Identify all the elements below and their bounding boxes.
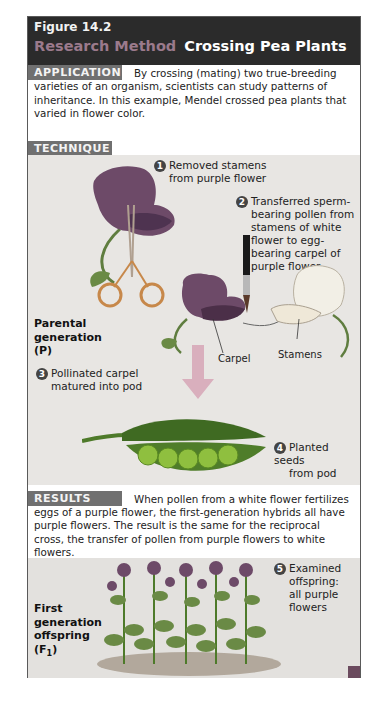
- step-1-line-1: Removed stamens: [169, 159, 266, 171]
- results-text-first: When pollen from a white flower fertiliz…: [134, 493, 349, 505]
- f1-line-3: offspring: [34, 629, 102, 643]
- corner-marker: [348, 666, 360, 678]
- step-2-line-1: Transferred sperm-: [251, 195, 350, 207]
- f1-close-paren: ): [52, 643, 57, 656]
- figure-frame: Figure 14.2 Research MethodCrossing Pea …: [27, 16, 361, 678]
- step-number-5-icon: 5: [274, 563, 286, 575]
- step-2-line-2: bearing pollen from: [236, 208, 354, 221]
- step-number-2-icon: 2: [236, 196, 248, 208]
- parental-line-1: Parental: [34, 317, 102, 331]
- f1-symbol: (F: [34, 643, 47, 656]
- parental-line-2: generation: [34, 331, 102, 345]
- figure-category: Research Method: [34, 38, 176, 54]
- figure-title: Crossing Pea Plants: [184, 38, 346, 54]
- step-4-line-2: from pod: [274, 467, 360, 480]
- figure-title-line: Research MethodCrossing Pea Plants: [34, 38, 347, 54]
- step-5-line-3: all purple: [274, 588, 341, 601]
- step-3-line-2: matured into pod: [36, 380, 142, 393]
- step-3: 3Pollinated carpel matured into pod: [36, 367, 142, 393]
- step-4: 4Planted seeds from pod: [274, 441, 360, 480]
- application-text: By crossing (mating) two true-breeding v…: [34, 67, 352, 121]
- step-2-line-3: stamens of white: [236, 221, 354, 234]
- step-number-1-icon: 1: [154, 160, 166, 172]
- pea-pod-illustration: [82, 411, 272, 481]
- technique-panel: 1Removed stamens from purple flower 2Tra…: [28, 155, 360, 485]
- carpel-label: Carpel: [218, 353, 251, 364]
- stamens-label: Stamens: [278, 349, 322, 360]
- step-5-line-4: flowers: [274, 601, 341, 614]
- parental-line-3: (P): [34, 344, 102, 358]
- results-text-rest: eggs of a purple flower, the first-gener…: [34, 506, 345, 558]
- step-5-line-1: Examined: [289, 562, 341, 574]
- f1-line-1: First: [34, 602, 102, 616]
- step-1-line-2: from purple flower: [154, 172, 266, 185]
- f1-line-2: generation: [34, 616, 102, 630]
- figure-header: Figure 14.2 Research MethodCrossing Pea …: [28, 17, 360, 65]
- step-3-line-1: Pollinated carpel: [51, 367, 138, 379]
- step-1: 1Removed stamens from purple flower: [154, 159, 266, 185]
- technique-label: TECHNIQUE: [28, 141, 112, 156]
- application-text-first: By crossing (mating) two true-breeding: [134, 67, 336, 79]
- figure-number: Figure 14.2: [34, 20, 111, 34]
- step-number-3-icon: 3: [36, 368, 48, 380]
- step-5-line-2: offspring:: [274, 575, 341, 588]
- f1-line-4: (F1): [34, 643, 102, 661]
- down-arrow-icon: [178, 345, 218, 405]
- results-text: When pollen from a white flower fertiliz…: [34, 493, 352, 559]
- f1-plants-illustration: [94, 560, 284, 678]
- first-generation-label: First generation offspring (F1): [34, 602, 102, 660]
- cross-pollination-illustration: [143, 235, 363, 365]
- step-number-4-icon: 4: [274, 442, 286, 454]
- application-text-rest: varieties of an organism, scientists can…: [34, 80, 346, 119]
- f1-panel: 5Examined offspring: all purple flowers …: [28, 558, 360, 678]
- parental-generation-label: Parental generation (P): [34, 317, 102, 358]
- step-5: 5Examined offspring: all purple flowers: [274, 562, 341, 614]
